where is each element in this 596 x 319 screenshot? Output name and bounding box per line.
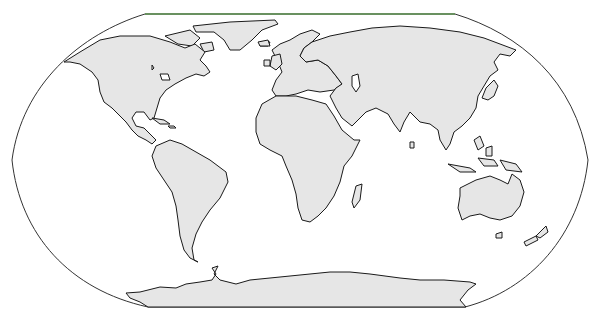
world-map-svg	[0, 0, 596, 319]
sri-lanka	[410, 142, 414, 148]
world-map	[0, 0, 596, 319]
